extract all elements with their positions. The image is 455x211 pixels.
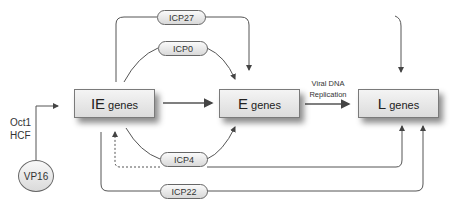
e-genes-prefix: E (238, 95, 248, 112)
icp4-pill: ICP4 (160, 152, 208, 167)
ie-genes-prefix: IE (91, 95, 105, 112)
ie-genes-box: IE genes (74, 89, 155, 118)
icp27-to-l-arrow (395, 16, 401, 72)
replication-label: Replication (303, 89, 353, 100)
e-genes-box: E genes (219, 89, 300, 118)
ie-genes-suffix: genes (108, 99, 138, 111)
icp27-to-e-arrow (205, 17, 249, 70)
viral-dna-replication-label: Viral DNA Replication (303, 78, 353, 100)
icp0-to-e-arrow (207, 48, 235, 79)
icp4-line-left (126, 128, 160, 159)
vp16-node: VP16 (18, 160, 54, 192)
icp27-pill: ICP27 (157, 10, 206, 25)
e-genes-suffix: genes (251, 99, 281, 111)
icp4-to-l-arrow (207, 126, 402, 167)
oct1-label: Oct1 (10, 116, 31, 129)
icp0-pill: ICP0 (158, 41, 208, 56)
l-genes-box: L genes (358, 89, 439, 118)
cofactor-label: Oct1 HCF (10, 116, 31, 142)
icp4-to-e-arrow (207, 127, 235, 159)
icp22-pill: ICP22 (160, 184, 208, 199)
viral-dna-label: Viral DNA (303, 78, 353, 89)
vp16-to-ie-arrow (36, 106, 58, 160)
hcf-label: HCF (10, 129, 31, 142)
icp0-line-left (124, 48, 158, 82)
icp27-line-left (116, 17, 157, 82)
icp22-to-l-arrow (207, 126, 423, 191)
l-genes-suffix: genes (389, 99, 419, 111)
l-genes-prefix: L (378, 95, 386, 112)
icp4-feedback-arrow (115, 132, 160, 167)
icp22-line-left (101, 132, 160, 191)
